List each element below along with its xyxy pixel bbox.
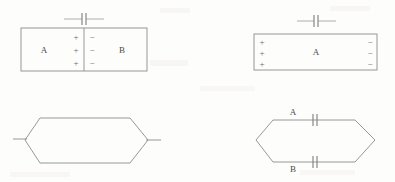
charge-plus: + xyxy=(73,32,78,42)
diagram-sheet: A B + + + − − − A + + xyxy=(0,0,395,182)
charge-plus: + xyxy=(73,58,78,68)
region-label-b: B xyxy=(119,45,125,55)
capacitor-icon xyxy=(64,13,104,25)
charge-minus: − xyxy=(367,37,372,47)
charge-minus: − xyxy=(89,45,94,55)
figure-bottom-right: A B xyxy=(256,107,375,174)
charge-plus: + xyxy=(259,37,264,47)
charge-minus: − xyxy=(89,32,94,42)
figure-top-right: A + + + − − − xyxy=(254,15,377,70)
charge-plus: + xyxy=(259,48,264,58)
hexagon-loop xyxy=(256,120,375,162)
figure-top-left: A B + + + − − − xyxy=(21,13,147,71)
branch-label-b: B xyxy=(290,164,296,174)
region-label-a: A xyxy=(313,47,320,57)
branch-label-a: A xyxy=(290,107,297,117)
scan-noise xyxy=(10,6,370,177)
hexagon-loop xyxy=(25,118,148,163)
charge-plus: + xyxy=(73,45,78,55)
charge-minus: − xyxy=(367,59,372,69)
diagram-canvas: A B + + + − − − A + + xyxy=(0,0,395,182)
capacitor-icon xyxy=(297,15,336,27)
region-label-a: A xyxy=(41,45,48,55)
charge-plus: + xyxy=(259,59,264,69)
charge-minus: − xyxy=(89,58,94,68)
charge-minus: − xyxy=(367,48,372,58)
figure-bottom-left xyxy=(13,118,161,163)
